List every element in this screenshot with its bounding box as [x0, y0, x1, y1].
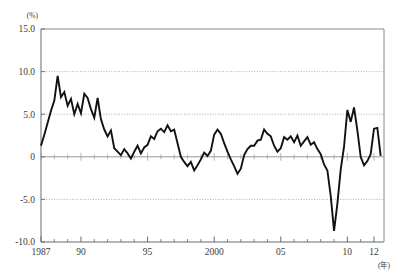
chart-axis-labels: 15.010.05.00-5.0-10.0198790952000051012 [15, 24, 379, 257]
y-axis-unit-label: (%) [27, 11, 39, 20]
y-tick-label: 0 [30, 152, 35, 162]
chart-series-layer [41, 76, 381, 231]
x-tick-label: 10 [343, 247, 353, 257]
y-tick-label: 15.0 [18, 24, 35, 34]
x-tick-label: 90 [76, 247, 86, 257]
x-tick-label: 2000 [205, 247, 224, 257]
x-tick-label: 1987 [32, 247, 51, 257]
line-chart: 15.010.05.00-5.0-10.0198790952000051012 … [0, 0, 397, 277]
y-tick-label: -10.0 [15, 237, 35, 247]
y-tick-label: 10.0 [18, 67, 35, 77]
data-line-growth-rate [41, 76, 381, 231]
chart-gridlines [41, 72, 384, 200]
x-axis-unit-label: (年) [378, 260, 390, 270]
x-tick-label: 95 [143, 247, 153, 257]
x-tick-label: 12 [369, 247, 379, 257]
y-tick-label: -5.0 [20, 195, 35, 205]
y-tick-label: 5.0 [23, 110, 35, 120]
chart-ticks [41, 29, 374, 242]
figure-container: 15.010.05.00-5.0-10.0198790952000051012 … [0, 0, 397, 277]
x-tick-label: 05 [276, 247, 286, 257]
